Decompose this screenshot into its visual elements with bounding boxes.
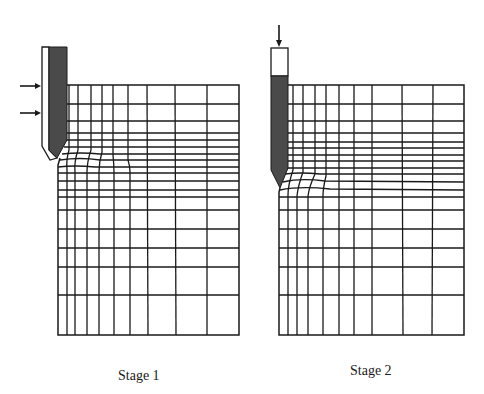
stage-2-soil-mesh [279,85,464,335]
stage-2-vertical-load-arrow [276,25,282,47]
stage-2-pile [271,48,288,188]
stage-2-panel [271,25,464,335]
stage-1-caption: Stage 1 [118,368,160,384]
stage-1-pile [42,47,67,160]
stage-2-caption: Stage 2 [350,363,392,379]
stage-1-panel [20,47,239,335]
stage-1-soil-mesh [58,85,239,335]
pile-cap [271,48,288,76]
pile-body [271,76,288,188]
pile-body [49,47,67,158]
stage-1-lateral-load-arrows [20,83,41,116]
diagram-canvas [0,0,484,394]
